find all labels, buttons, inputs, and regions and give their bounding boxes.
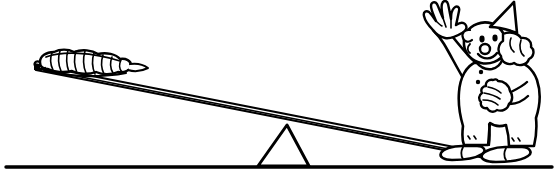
clown-nose <box>480 44 490 54</box>
seesaw-illustration <box>0 0 558 181</box>
clown-eye-right <box>492 35 497 42</box>
clown-pom-pom-1 <box>479 70 483 74</box>
line-art-scene: Line drawing of a lever: a small caterpi… <box>0 0 558 181</box>
clown-leg-seam <box>489 124 490 145</box>
clown-eye-left <box>479 36 484 43</box>
clown-pom-pom-2 <box>476 80 480 84</box>
